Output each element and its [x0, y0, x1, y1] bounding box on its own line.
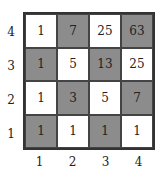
x-axis-label: 3 — [89, 155, 122, 169]
grid-cell: 63 — [121, 14, 153, 48]
grid-cell: 1 — [57, 115, 89, 149]
grid-cell: 1 — [25, 115, 57, 149]
grid-cell: 5 — [89, 81, 121, 115]
y-axis-label: 1 — [4, 127, 18, 141]
y-axis-label: 4 — [4, 25, 18, 39]
x-axis-label: 2 — [56, 155, 89, 169]
grid-cell: 1 — [25, 48, 57, 82]
grid-cell: 1 — [25, 14, 57, 48]
number-grid: 1 7 25 63 1 5 13 25 1 3 5 7 1 1 1 1 — [23, 12, 155, 150]
grid-cell: 3 — [57, 81, 89, 115]
x-axis-label: 4 — [122, 155, 155, 169]
grid-cell: 25 — [121, 48, 153, 82]
grid-cell: 7 — [57, 14, 89, 48]
grid-cell: 7 — [121, 81, 153, 115]
grid-cell: 5 — [57, 48, 89, 82]
y-axis-label: 3 — [4, 59, 18, 73]
grid-cell: 25 — [89, 14, 121, 48]
grid-cell: 1 — [25, 81, 57, 115]
grid-cell: 1 — [89, 115, 121, 149]
x-axis-label: 1 — [23, 155, 56, 169]
grid-cell: 1 — [121, 115, 153, 149]
grid-cell: 13 — [89, 48, 121, 82]
y-axis-label: 2 — [4, 93, 18, 107]
